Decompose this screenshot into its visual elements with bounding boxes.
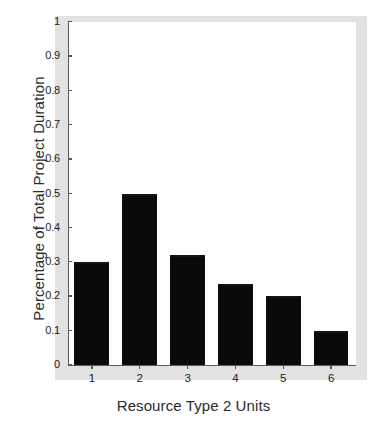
- x-tick-mark: [187, 365, 188, 369]
- y-tick-label: 0.3: [45, 255, 60, 267]
- y-axis-title: Percentage of Total Project Duration: [30, 34, 47, 364]
- bar-chart-figure: 00.10.20.30.40.50.60.70.80.91 123456 Per…: [0, 0, 387, 429]
- x-axis-ticks: 123456: [68, 22, 355, 365]
- y-tick-label: 0.5: [45, 187, 60, 199]
- x-tick-mark: [330, 365, 331, 369]
- x-tick-label: 2: [128, 372, 152, 384]
- x-tick-label: 6: [319, 372, 343, 384]
- x-tick-label: 3: [176, 372, 200, 384]
- y-tick-label: 0.4: [45, 221, 60, 233]
- x-tick-mark: [283, 365, 284, 369]
- x-tick-mark: [235, 365, 236, 369]
- y-tick-label: 0.9: [45, 49, 60, 61]
- x-tick-label: 4: [223, 372, 247, 384]
- y-tick-label: 0.8: [45, 84, 60, 96]
- y-tick-label: 1: [54, 15, 60, 27]
- y-tick-label: 0: [54, 358, 60, 370]
- x-tick-mark: [91, 365, 92, 369]
- x-tick-label: 1: [80, 372, 104, 384]
- x-axis-title: Resource Type 2 Units: [0, 397, 387, 414]
- y-tick-label: 0.6: [45, 152, 60, 164]
- y-tick-label: 0.2: [45, 289, 60, 301]
- y-tick-label: 0.7: [45, 118, 60, 130]
- x-tick-mark: [139, 365, 140, 369]
- x-tick-label: 5: [271, 372, 295, 384]
- y-tick-label: 0.1: [45, 324, 60, 336]
